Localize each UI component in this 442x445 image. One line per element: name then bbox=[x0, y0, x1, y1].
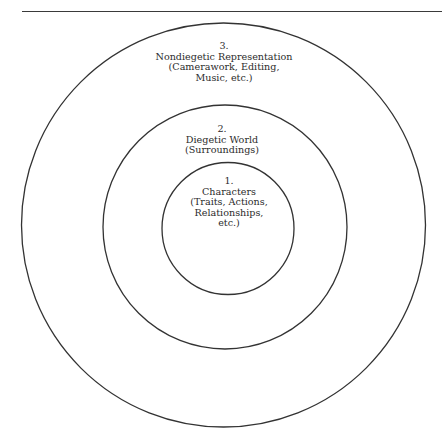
ring-3-number: 3. bbox=[156, 41, 293, 52]
ring-1-detail-1: (Traits, Actions, bbox=[190, 197, 268, 208]
ring-2-detail-1: (Surroundings) bbox=[185, 145, 259, 156]
label-ring-3: 3. Nondiegetic Representation (Camerawor… bbox=[156, 41, 293, 83]
ring-3-detail-1: (Camerawork, Editing, bbox=[156, 62, 293, 73]
ring-1-number: 1. bbox=[190, 176, 268, 187]
label-ring-2: 2. Diegetic World (Surroundings) bbox=[185, 124, 259, 156]
ring-3-detail-2: Music, etc.) bbox=[156, 73, 293, 84]
label-ring-1: 1. Characters (Traits, Actions, Relation… bbox=[190, 176, 268, 229]
ring-2-number: 2. bbox=[185, 124, 259, 135]
ring-1-detail-3: etc.) bbox=[190, 218, 268, 229]
